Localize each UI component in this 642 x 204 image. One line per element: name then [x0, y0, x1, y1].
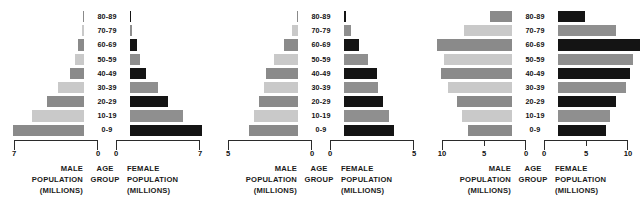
female-bar[interactable]	[344, 96, 383, 107]
male-bar-cell	[214, 11, 298, 22]
age-group-label: 40-49	[84, 70, 130, 77]
female-bar[interactable]	[344, 25, 351, 36]
male-bar-cell	[214, 82, 298, 93]
axis-tick-label: 7	[12, 150, 16, 158]
age-group-caption: AGEGROUP	[511, 163, 555, 185]
female-axis-caption-line: (MILLIONS)	[341, 185, 411, 196]
pyramid-row: 60-69	[0, 38, 214, 51]
age-group-label: 10-19	[512, 112, 558, 119]
male-bar[interactable]	[292, 25, 298, 36]
male-bar[interactable]	[58, 82, 84, 93]
pyramid-row: 40-49	[0, 67, 214, 80]
male-bar[interactable]	[70, 68, 84, 79]
pyramid-row: 80-89	[214, 10, 428, 23]
female-bar[interactable]	[558, 11, 585, 22]
female-bar[interactable]	[130, 110, 183, 121]
female-bar[interactable]	[558, 110, 610, 121]
male-axis-caption-line: MALE	[231, 163, 297, 174]
female-bar[interactable]	[344, 82, 378, 93]
male-bar[interactable]	[468, 125, 512, 136]
axis-tick-label: 5	[226, 150, 230, 158]
female-bar[interactable]	[344, 11, 346, 22]
male-bar-cell	[0, 125, 84, 136]
female-bar[interactable]	[130, 25, 132, 36]
male-bar[interactable]	[78, 39, 84, 50]
axis-tick-label: 0	[542, 150, 546, 158]
female-bar-cell	[344, 82, 428, 93]
female-bar-cell	[344, 96, 428, 107]
female-bar[interactable]	[130, 125, 202, 136]
female-bar[interactable]	[344, 39, 359, 50]
male-bar[interactable]	[13, 125, 84, 136]
female-bar[interactable]	[558, 68, 630, 79]
female-bar[interactable]	[130, 82, 158, 93]
male-bar[interactable]	[83, 11, 84, 22]
male-axis-caption-line: MALE	[445, 163, 511, 174]
female-bar[interactable]	[130, 96, 168, 107]
age-group-label: 10-19	[84, 112, 130, 119]
age-group-caption-line: GROUP	[83, 174, 127, 185]
female-bar-cell	[558, 54, 642, 65]
male-bar-cell	[428, 82, 512, 93]
male-bar[interactable]	[82, 25, 84, 36]
male-bar[interactable]	[274, 54, 298, 65]
pyramid-row: 70-79	[214, 24, 428, 37]
female-bar[interactable]	[344, 54, 368, 65]
female-bar[interactable]	[558, 25, 616, 36]
age-group-label: 20-29	[298, 98, 344, 105]
age-group-caption-line: AGE	[83, 163, 127, 174]
male-bar[interactable]	[259, 96, 298, 107]
female-axis-caption-line: FEMALE	[127, 163, 197, 174]
male-bar[interactable]	[437, 39, 512, 50]
female-bar[interactable]	[558, 39, 640, 50]
age-group-caption: AGEGROUP	[297, 163, 341, 185]
axis-tick-label: 0	[96, 150, 100, 158]
age-group-label: 60-69	[298, 41, 344, 48]
female-bar[interactable]	[130, 39, 137, 50]
female-bar-cell	[344, 25, 428, 36]
male-bar[interactable]	[75, 54, 84, 65]
female-bar[interactable]	[344, 68, 377, 79]
male-bar[interactable]	[462, 110, 512, 121]
female-bar-cell	[130, 39, 214, 50]
male-bar[interactable]	[32, 110, 84, 121]
male-bar[interactable]	[266, 68, 298, 79]
female-bar[interactable]	[558, 125, 606, 136]
male-bar[interactable]	[457, 96, 512, 107]
male-bar[interactable]	[490, 11, 512, 22]
male-bar[interactable]	[441, 68, 512, 79]
male-bar[interactable]	[249, 125, 298, 136]
age-group-label: 80-89	[512, 13, 558, 20]
female-bar[interactable]	[344, 110, 389, 121]
age-group-label: 60-69	[512, 41, 558, 48]
female-bar-cell	[344, 110, 428, 121]
female-bar[interactable]	[558, 82, 626, 93]
female-bar[interactable]	[130, 11, 131, 22]
female-bar[interactable]	[558, 96, 616, 107]
female-bar-cell	[344, 11, 428, 22]
male-bar[interactable]	[297, 11, 298, 22]
age-group-label: 0-9	[512, 126, 558, 133]
female-bar[interactable]	[130, 54, 140, 65]
male-bar[interactable]	[264, 82, 298, 93]
male-bar[interactable]	[464, 25, 512, 36]
male-axis-caption-line: POPULATION	[231, 174, 297, 185]
male-bar[interactable]	[47, 96, 84, 107]
pyramid-row: 30-39	[0, 81, 214, 94]
female-axis-caption-line: POPULATION	[127, 174, 197, 185]
female-bar[interactable]	[344, 125, 394, 136]
pyramid-row: 80-89	[428, 10, 642, 23]
female-bar[interactable]	[130, 68, 146, 79]
age-group-caption-line: AGE	[297, 163, 341, 174]
male-bar[interactable]	[448, 82, 512, 93]
male-bar-cell	[0, 96, 84, 107]
pyramid-row: 40-49	[428, 67, 642, 80]
age-group-label: 50-59	[298, 56, 344, 63]
female-bar[interactable]	[558, 54, 633, 65]
male-bar[interactable]	[444, 54, 512, 65]
male-bar[interactable]	[284, 39, 298, 50]
age-group-label: 10-19	[298, 112, 344, 119]
male-bar[interactable]	[254, 110, 298, 121]
female-axis-caption-line: (MILLIONS)	[555, 185, 625, 196]
male-axis-caption-line: POPULATION	[17, 174, 83, 185]
